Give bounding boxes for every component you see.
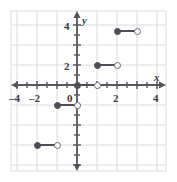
closed-endpoint-1-2 <box>94 62 101 69</box>
x-tick-label-pos2: 2 <box>113 93 119 104</box>
open-endpoint-0-neg1 <box>74 102 81 109</box>
plot-background <box>0 0 177 182</box>
x-tick-label-zero: 0 <box>67 93 73 104</box>
open-endpoint-neg1-neg3 <box>54 142 61 149</box>
closed-endpoint-0-0 <box>74 82 81 89</box>
x-tick-label-neg2: –2 <box>29 93 40 104</box>
x-axis-label: x <box>154 72 160 83</box>
open-endpoint-2-2 <box>114 62 121 69</box>
y-axis-label: y <box>82 15 87 26</box>
open-endpoint-1-0 <box>94 82 101 89</box>
x-tick-label-neg4: –4 <box>9 93 20 104</box>
y-tick-label-4: 4 <box>64 21 70 32</box>
closed-endpoint-neg1-neg1 <box>54 102 61 109</box>
x-tick-label-pos4: 4 <box>153 93 159 104</box>
open-endpoint-3-4 <box>134 28 141 35</box>
closed-endpoint-2-4 <box>114 28 121 35</box>
plot-canvas <box>0 0 177 182</box>
coordinate-plane-figure: –4 –2 0 2 4 4 2 y x <box>0 0 177 182</box>
closed-endpoint-neg2-neg3 <box>34 142 41 149</box>
y-tick-label-2: 2 <box>64 61 70 72</box>
